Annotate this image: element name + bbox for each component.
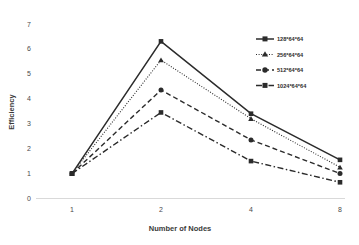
legend-label: 128*64*64 <box>277 36 304 42</box>
series-line-128 <box>72 41 340 173</box>
square-marker-icon <box>338 180 343 185</box>
square-marker-icon <box>338 158 343 163</box>
legend-label: 512*64*64 <box>277 67 304 73</box>
y-tick-label: 7 <box>27 21 31 28</box>
triangle-marker-icon <box>337 165 343 170</box>
legend: 128*64*64 256*64*64 512*64*64 1024*64*64 <box>256 36 307 89</box>
circle-marker-icon <box>262 67 267 72</box>
square-marker-icon <box>159 110 164 115</box>
triangle-marker-icon <box>248 116 254 121</box>
y-axis-ticks: 7 6 5 4 3 2 1 0 <box>27 21 31 202</box>
triangle-marker-icon <box>158 57 164 62</box>
y-tick-label: 1 <box>27 170 31 177</box>
x-axis-title: Number of Nodes <box>149 224 212 233</box>
series-line-512 <box>72 90 340 174</box>
y-tick-label: 4 <box>27 95 31 102</box>
x-axis-ticks: 1 2 4 8 <box>70 206 342 213</box>
square-marker-icon <box>159 39 164 44</box>
square-marker-icon <box>263 36 268 41</box>
x-tick-label: 1 <box>70 206 74 213</box>
series-markers <box>69 39 343 185</box>
triangle-marker-icon <box>262 51 268 56</box>
y-tick-label: 3 <box>27 120 31 127</box>
efficiency-line-chart: 7 6 5 4 3 2 1 0 1 2 4 8 Number of Nodes … <box>0 0 359 245</box>
y-tick-label: 5 <box>27 70 31 77</box>
legend-item-512[interactable]: 512*64*64 <box>256 67 304 73</box>
circle-marker-icon <box>159 87 164 92</box>
y-tick-label: 6 <box>27 45 31 52</box>
series-line-1024 <box>72 112 340 182</box>
legend-item-1024[interactable]: 1024*64*64 <box>256 83 307 89</box>
chart-canvas: 7 6 5 4 3 2 1 0 1 2 4 8 Number of Nodes … <box>0 0 359 245</box>
legend-label: 1024*64*64 <box>277 83 307 89</box>
legend-label: 256*64*64 <box>277 52 304 58</box>
square-marker-icon <box>249 159 254 164</box>
square-marker-icon <box>263 83 268 88</box>
y-tick-label: 2 <box>27 145 31 152</box>
y-axis-title: Efficiency <box>7 93 16 129</box>
circle-marker-icon <box>338 171 343 176</box>
legend-item-128[interactable]: 128*64*64 <box>256 36 304 42</box>
y-tick-label: 0 <box>27 195 31 202</box>
x-tick-label: 4 <box>249 206 253 213</box>
square-marker-icon <box>70 171 75 176</box>
legend-item-256[interactable]: 256*64*64 <box>256 51 304 58</box>
x-tick-label: 2 <box>159 206 163 213</box>
series-lines <box>72 41 340 182</box>
x-tick-label: 8 <box>338 206 342 213</box>
square-marker-icon <box>249 111 254 116</box>
circle-marker-icon <box>249 137 254 142</box>
